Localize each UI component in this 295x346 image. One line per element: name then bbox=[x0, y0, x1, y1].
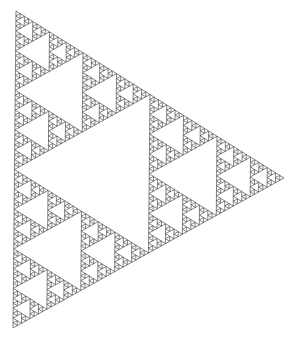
triangle-cell bbox=[217, 156, 221, 161]
triangle-cell bbox=[225, 201, 229, 206]
triangle-cell bbox=[81, 236, 85, 241]
triangle-cell bbox=[158, 120, 162, 125]
triangle-cell bbox=[200, 131, 204, 136]
triangle-cell bbox=[82, 127, 86, 132]
triangle-cell bbox=[56, 280, 60, 285]
triangle-cell bbox=[40, 150, 44, 155]
triangle-cell bbox=[14, 259, 18, 264]
triangle-cell bbox=[40, 146, 44, 151]
triangle-cell bbox=[259, 187, 263, 192]
triangle-cell bbox=[115, 237, 119, 242]
triangle-cell bbox=[19, 93, 23, 98]
triangle-cell bbox=[18, 202, 22, 207]
triangle-cell bbox=[217, 136, 221, 141]
triangle-cell bbox=[150, 119, 154, 124]
triangle-cell bbox=[43, 307, 47, 312]
triangle-cell bbox=[217, 171, 221, 176]
triangle-cell bbox=[167, 110, 171, 115]
triangle-cell bbox=[217, 161, 221, 166]
triangle-cell bbox=[87, 105, 91, 110]
triangle-cell bbox=[238, 149, 242, 154]
triangle-cell bbox=[73, 211, 77, 216]
triangle-cell bbox=[149, 213, 153, 218]
triangle-cell bbox=[250, 167, 254, 172]
triangle-cell bbox=[16, 51, 20, 56]
triangle-cell bbox=[35, 222, 39, 227]
triangle-cell bbox=[61, 198, 65, 203]
triangle-cell bbox=[48, 205, 52, 210]
triangle-cell bbox=[133, 89, 137, 94]
triangle-cell bbox=[150, 124, 154, 129]
triangle-cell bbox=[82, 102, 86, 107]
triangle-cell bbox=[187, 207, 191, 212]
triangle-cell bbox=[14, 229, 18, 234]
triangle-cell bbox=[69, 213, 73, 218]
triangle-cell bbox=[51, 272, 55, 277]
triangle-cell bbox=[24, 81, 28, 86]
triangle-cell bbox=[32, 106, 36, 111]
triangle-cell bbox=[48, 210, 52, 215]
triangle-cell bbox=[108, 68, 112, 73]
triangle-cell bbox=[13, 303, 17, 308]
triangle-cell bbox=[154, 147, 158, 152]
triangle-cell bbox=[108, 73, 112, 78]
triangle-cell bbox=[15, 90, 19, 95]
triangle-cell bbox=[31, 220, 35, 225]
triangle-cell bbox=[31, 195, 35, 200]
triangle-cell bbox=[183, 200, 187, 205]
triangle-cell bbox=[225, 186, 229, 191]
triangle-cell bbox=[149, 238, 153, 243]
triangle-cell bbox=[153, 196, 157, 201]
triangle-cell bbox=[187, 227, 191, 232]
triangle-cell bbox=[250, 177, 254, 182]
triangle-cell bbox=[15, 115, 19, 120]
triangle-cell bbox=[16, 56, 20, 61]
triangle-cell bbox=[16, 46, 20, 51]
triangle-cell bbox=[32, 71, 36, 76]
triangle-cell bbox=[209, 131, 213, 136]
triangle-cell bbox=[221, 159, 225, 164]
triangle-cell bbox=[246, 155, 250, 160]
triangle-cell bbox=[53, 143, 57, 148]
triangle-cell bbox=[56, 215, 60, 220]
triangle-cell bbox=[51, 282, 55, 287]
triangle-cell bbox=[14, 234, 18, 239]
triangle-cell bbox=[83, 63, 87, 68]
triangle-cell bbox=[167, 115, 171, 120]
triangle-cell bbox=[30, 314, 34, 319]
triangle-cell bbox=[163, 102, 167, 107]
triangle-cell bbox=[22, 239, 26, 244]
triangle-cell bbox=[280, 175, 284, 180]
triangle-cell bbox=[121, 76, 125, 81]
triangle-cell bbox=[179, 113, 183, 118]
triangle-cell bbox=[116, 84, 120, 89]
triangle-cell bbox=[15, 85, 19, 90]
triangle-cell bbox=[81, 211, 85, 216]
triangle-cell bbox=[20, 53, 24, 58]
triangle-cell bbox=[35, 232, 39, 237]
triangle-cell bbox=[16, 11, 20, 16]
triangle-cell bbox=[83, 82, 87, 87]
triangle-cell bbox=[69, 203, 73, 208]
triangle-cell bbox=[28, 118, 32, 123]
triangle-cell bbox=[154, 157, 158, 162]
triangle-cell bbox=[44, 188, 48, 193]
triangle-cell bbox=[242, 192, 246, 197]
triangle-cell bbox=[56, 220, 60, 225]
triangle-cell bbox=[142, 89, 146, 94]
triangle-cell bbox=[233, 186, 237, 191]
triangle-cell bbox=[53, 134, 57, 139]
triangle-cell bbox=[120, 96, 124, 101]
triangle-cell bbox=[24, 21, 28, 26]
triangle-cell bbox=[31, 180, 35, 185]
triangle-cell bbox=[36, 103, 40, 108]
triangle-cell bbox=[24, 61, 28, 66]
triangle-cell bbox=[26, 296, 30, 301]
triangle-cell bbox=[107, 227, 111, 232]
triangle-cell bbox=[53, 54, 57, 59]
triangle-cell bbox=[125, 104, 129, 109]
triangle-cell bbox=[87, 115, 91, 120]
triangle-cell bbox=[49, 126, 53, 131]
triangle-cell bbox=[33, 26, 37, 31]
triangle-cell bbox=[149, 159, 153, 164]
